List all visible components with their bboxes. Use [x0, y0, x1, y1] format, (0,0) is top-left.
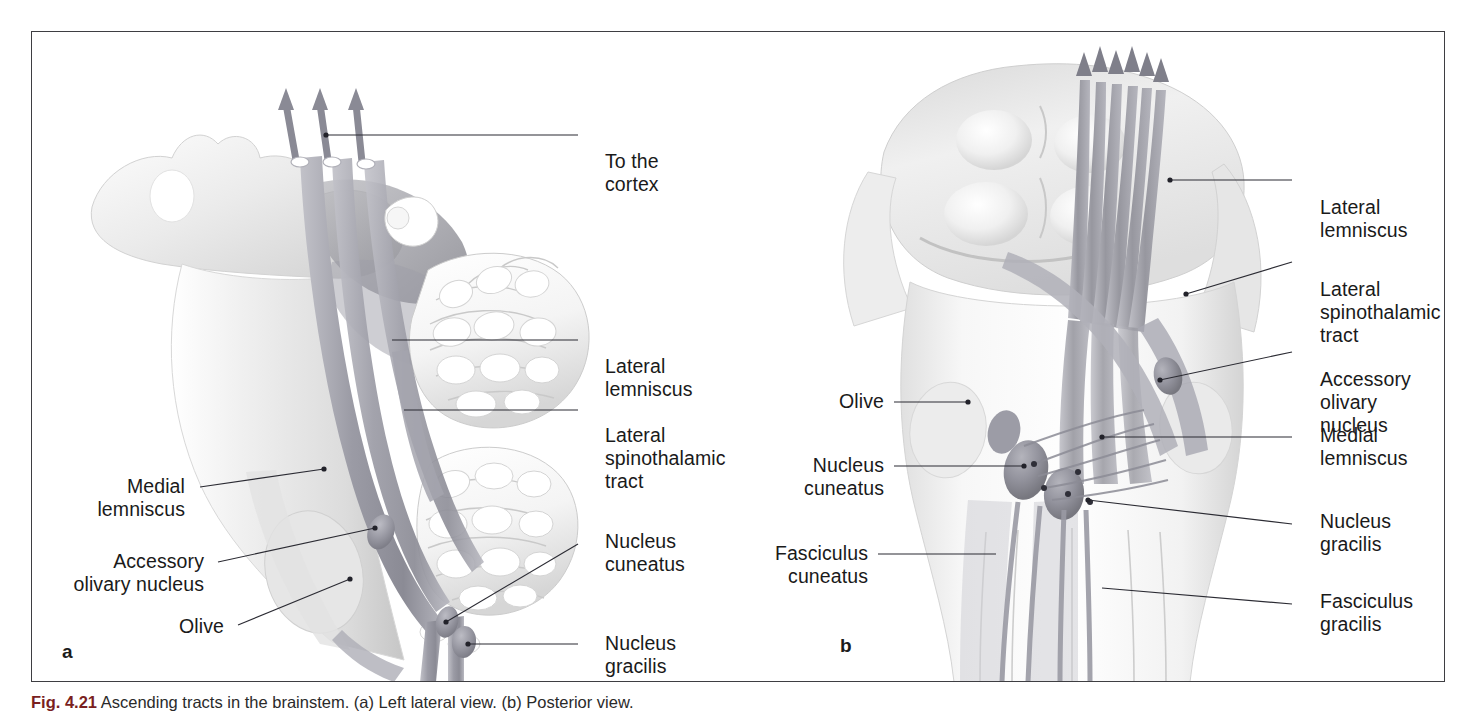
figure-caption: Fig. 4.21 Ascending tracts in the brains… [31, 692, 1445, 711]
figure-page: To the cortex Lateral lemniscus Lateral … [0, 0, 1477, 711]
label-lateral-spinothalamic-tract-b: Lateral spinothalamic tract [1320, 278, 1441, 347]
cortex-arrowheads [278, 88, 364, 110]
label-nucleus-cuneatus-b: Nucleus cuneatus [772, 454, 884, 500]
label-lateral-lemniscus-a: Lateral lemniscus [605, 355, 693, 401]
mammillary-body [150, 170, 194, 222]
label-olive-a: Olive [32, 615, 224, 638]
label-medial-lemniscus-b: Medial lemniscus [1320, 424, 1408, 470]
label-lateral-lemniscus-b: Lateral lemniscus [1320, 196, 1408, 242]
label-accessory-olivary-nucleus-a: Accessory olivary nucleus [32, 550, 204, 596]
panel-b-letter: b [840, 635, 852, 657]
label-lateral-spinothalamic-tract-a: Lateral spinothalamic tract [605, 424, 726, 493]
label-fasciculus-gracilis-b: Fasciculus gracilis [1320, 590, 1413, 636]
panel-b-posterior-view: Lateral lemniscus Lateral spinothalamic … [772, 32, 1444, 681]
tract-origin-caps [291, 157, 375, 169]
cortex-arrows [286, 104, 362, 162]
panel-b-illustration [772, 32, 1444, 682]
figure-frame: To the cortex Lateral lemniscus Lateral … [31, 31, 1445, 682]
cerebellum-upper [409, 253, 589, 428]
label-nucleus-gracilis-b: Nucleus gracilis [1320, 510, 1391, 556]
figure-number: Fig. 4.21 [31, 693, 97, 711]
label-nucleus-gracilis-a: Nucleus gracilis [605, 632, 676, 678]
label-fasciculus-cuneatus-b: Fasciculus cuneatus [772, 542, 868, 588]
figure-caption-text: Ascending tracts in the brainstem. (a) L… [101, 693, 634, 711]
label-medial-lemniscus-a: Medial lemniscus [32, 475, 185, 521]
label-to-the-cortex: To the cortex [605, 150, 659, 196]
label-olive-b: Olive [772, 390, 884, 413]
label-nucleus-cuneatus-a: Nucleus cuneatus [605, 530, 685, 576]
panel-a-lateral-view: To the cortex Lateral lemniscus Lateral … [32, 32, 772, 681]
panel-a-letter: a [62, 641, 73, 663]
